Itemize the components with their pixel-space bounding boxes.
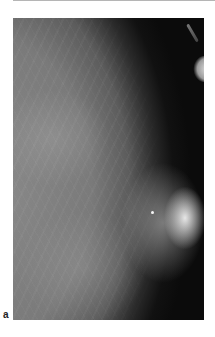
mammogram-image [13,18,204,320]
top-rule-divider [13,0,215,1]
panel-label: a [3,309,9,321]
calcification-dot [151,211,154,214]
fibrous-strands [13,18,204,320]
